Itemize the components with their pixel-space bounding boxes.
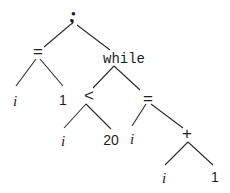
- node-const-1: 1: [59, 92, 67, 108]
- edge-plus-i: [165, 142, 188, 165]
- node-var-i: i: [13, 93, 17, 109]
- node-var-i: i: [61, 133, 65, 149]
- node-while: while: [103, 51, 145, 67]
- node-const-1: 1: [211, 169, 219, 185]
- node-const-20: 20: [103, 132, 119, 148]
- edge-root-assign1: [44, 25, 70, 47]
- node-var-i: i: [130, 131, 134, 147]
- node-less-than: <: [84, 86, 94, 105]
- edge-assign1-1: [40, 59, 63, 86]
- nodes: ; = while i 1 < = i 20 i + i 1: [13, 2, 219, 186]
- edge-lt-20: [86, 104, 111, 129]
- edge-while-assign2: [114, 66, 140, 90]
- node-var-i: i: [162, 170, 166, 186]
- node-plus: +: [182, 124, 192, 143]
- node-assign-update: =: [143, 89, 153, 108]
- edge-root-while: [77, 25, 110, 50]
- node-sequence: ;: [69, 2, 76, 27]
- syntax-tree-diagram: ; = while i 1 < = i 20 i + i 1: [0, 0, 230, 193]
- edge-assign1-i: [16, 59, 36, 86]
- edge-lt-i: [64, 104, 86, 128]
- edge-assign2-plus: [151, 104, 183, 128]
- edge-while-lt: [93, 66, 114, 88]
- node-assign-init: =: [33, 42, 43, 61]
- edge-plus-1: [188, 142, 213, 165]
